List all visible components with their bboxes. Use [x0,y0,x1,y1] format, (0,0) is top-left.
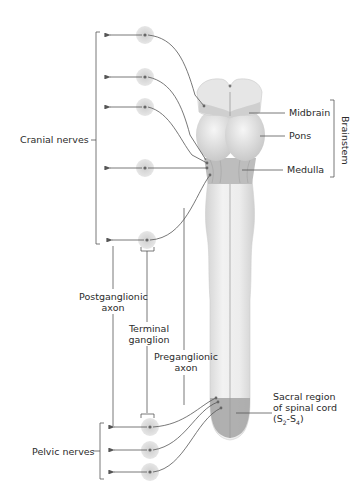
midbrain [197,79,262,118]
postganglionic-axon-label: Postganglionic axon [79,291,147,313]
terminal-ganglion-label: Terminal ganglion [124,323,174,345]
pelvic-nerves-label: Pelvic nerves [32,446,95,457]
medulla [204,158,256,184]
sacral-segments: (S2-S4) [273,413,337,428]
cranial-bracket [96,32,100,244]
cranial-nerves [91,26,211,249]
brainstem-label: Brainstem [340,116,351,165]
preganglionic-axon-label: Preganglionic axon [153,351,219,373]
spinal-cord [205,180,254,440]
pelvic-nerves [93,397,222,481]
sacral-region-label: Sacral region of spinal cord (S2-S4) [273,391,337,428]
pelvic-bracket [100,423,104,479]
pons-label: Pons [289,130,311,141]
midbrain-label: Midbrain [289,107,330,118]
medulla-label: Medulla [287,164,324,175]
cranial-nerves-label: Cranial nerves [20,134,89,145]
